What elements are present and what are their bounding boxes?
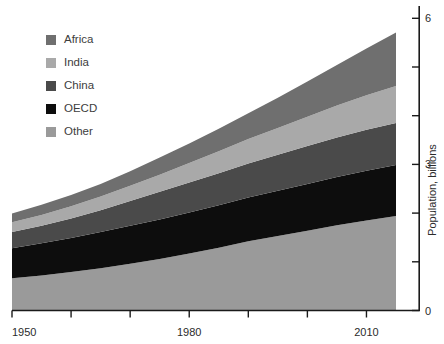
legend-item-china[interactable]: China [46,74,97,97]
legend-label-china: China [64,80,94,92]
y-tick-label-6: 6 [425,12,431,24]
legend-item-india[interactable]: India [46,51,97,74]
legend-swatch-other [46,127,56,137]
population-stacked-area-chart: 195019802010036 Population, billions Afr… [0,0,444,344]
chart-legend: Africa India China OECD Other [46,28,97,143]
legend-label-africa: Africa [64,34,93,46]
y-tick-label-0: 0 [425,305,431,317]
legend-swatch-oecd [46,104,56,114]
legend-item-oecd[interactable]: OECD [46,97,97,120]
legend-label-oecd: OECD [64,103,97,115]
legend-item-other[interactable]: Other [46,120,97,143]
legend-swatch-china [46,81,56,91]
x-tick-label-1980: 1980 [177,326,201,338]
legend-label-other: Other [64,126,93,138]
legend-swatch-india [46,58,56,68]
x-tick-label-1950: 1950 [12,326,36,338]
x-tick-label-2010: 2010 [354,326,378,338]
legend-item-africa[interactable]: Africa [46,28,97,51]
legend-swatch-africa [46,35,56,45]
y-axis-title: Population, billions [426,144,438,236]
legend-label-india: India [64,57,89,69]
